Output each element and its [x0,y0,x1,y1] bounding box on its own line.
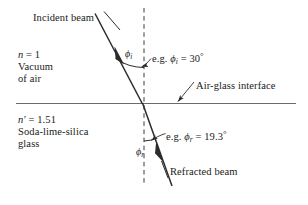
air-medium-line-2: Vacuum [18,61,53,73]
refraction-eg-prefix: e.g. [166,131,184,142]
air-index-value: = 1 [23,49,40,60]
air-glass-interface-label: Air-glass interface [196,80,276,92]
air-medium-label-block: n = 1 Vacuum of air [18,49,53,85]
incident-beam-leader [104,12,120,31]
air-medium-line-3: of air [18,73,53,85]
angle-of-incidence-symbol: ϕi [125,48,132,63]
incidence-degree-sign: ° [200,51,204,61]
glass-refractive-index-line: n′ = 1.51 [18,114,88,126]
refraction-degree-sign: ° [223,129,227,139]
angle-of-refraction-symbol: ϕr [136,146,144,161]
glass-index-symbol: n′ [18,114,26,125]
diagram-canvas [0,0,308,205]
phi-r-subscript: r [141,150,144,159]
air-refractive-index-line: n = 1 [18,49,53,61]
incident-beam-label: Incident beam [33,12,94,24]
interface-leader [178,82,194,102]
refraction-diagram: Incident beam n = 1 Vacuum of air n′ = 1… [0,0,308,205]
glass-medium-label-block: n′ = 1.51 Soda-lime-silica glass [18,114,88,150]
refracted-beam-label: Refracted beam [170,166,238,178]
incidence-angle-leader [142,59,151,67]
incidence-eg-prefix: e.g. [152,53,170,64]
refraction-angle-value-annotation: e.g. ϕr = 19.3° [166,128,227,146]
glass-index-value: = 1.51 [26,114,56,125]
incidence-angle-value-annotation: e.g. ϕi = 30° [152,50,204,68]
refracted-ray-arrowhead [155,142,164,163]
incidence-angle-number: = 30 [178,53,200,64]
glass-medium-line-2: Soda-lime-silica [18,126,88,138]
phi-i-subscript: i [130,52,132,61]
incident-ray-arrowhead [115,46,125,64]
glass-medium-line-3: glass [18,138,88,150]
refraction-angle-number: = 19.3 [193,131,223,142]
